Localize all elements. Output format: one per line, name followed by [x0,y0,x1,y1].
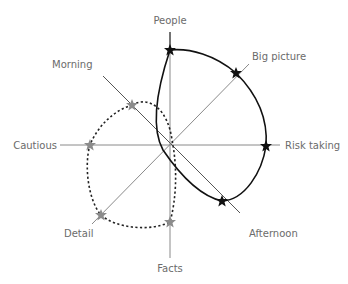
label-morning: Morning [52,59,92,70]
label-people: People [153,15,186,26]
label-risk-taking: Risk taking [285,140,340,151]
label-cautious: Cautious [13,140,57,151]
label-facts: Facts [157,263,183,274]
black-star-markers [164,44,272,206]
dashed-grey-profile-curve [87,102,175,228]
solid-black-profile-curve [156,50,266,201]
label-afternoon: Afternoon [249,228,298,239]
label-big-picture: Big picture [252,51,306,62]
radar-diagram: People Big picture Risk taking Afternoon… [0,0,348,284]
grey-star-markers [84,99,176,227]
label-detail: Detail [64,228,93,239]
